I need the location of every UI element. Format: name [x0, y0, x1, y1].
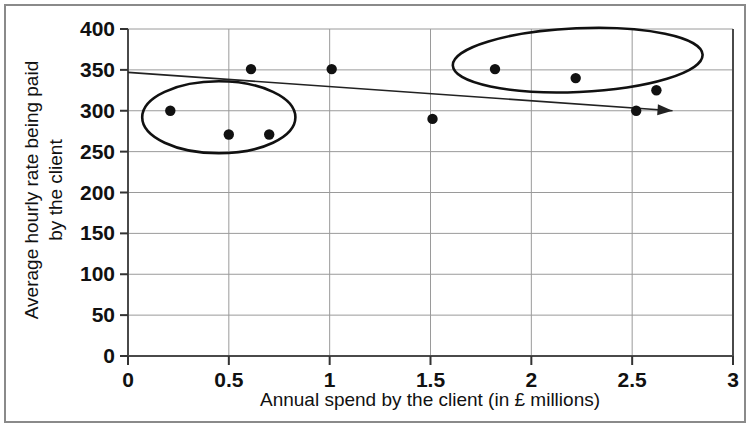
data-point: [246, 64, 256, 74]
y-tick-labels: 050100150200250300350400: [80, 17, 115, 367]
y-tick-marks: [120, 29, 128, 356]
y-tick-label: 100: [80, 262, 115, 285]
data-point: [651, 85, 661, 95]
y-axis-title-line1: Average hourly rate being paid: [21, 61, 42, 319]
data-point: [327, 64, 337, 74]
y-tick-label: 400: [80, 17, 115, 40]
scatter-chart: 050100150200250300350400 00.511.522.53 A…: [0, 0, 750, 427]
data-point: [490, 64, 500, 74]
data-point: [224, 129, 234, 139]
x-axis-title: Annual spend by the client (in £ million…: [260, 389, 600, 410]
x-tick-label: 1.5: [416, 368, 446, 391]
x-tick-label: 2.5: [618, 368, 648, 391]
data-point: [165, 106, 175, 116]
x-tick-labels: 00.511.522.53: [122, 368, 739, 391]
y-tick-label: 50: [92, 303, 115, 326]
data-point: [571, 73, 581, 83]
y-tick-label: 300: [80, 99, 115, 122]
x-tick-label: 0.5: [214, 368, 244, 391]
x-tick-label: 3: [727, 368, 739, 391]
chart-figure: 050100150200250300350400 00.511.522.53 A…: [0, 0, 750, 427]
y-tick-label: 0: [103, 344, 115, 367]
x-tick-label: 0: [122, 368, 134, 391]
data-point: [264, 129, 274, 139]
x-tick-label: 2: [525, 368, 537, 391]
x-tick-marks: [128, 356, 733, 365]
data-point: [427, 114, 437, 124]
y-tick-label: 250: [80, 140, 115, 163]
data-point: [631, 106, 641, 116]
x-tick-label: 1: [324, 368, 336, 391]
y-tick-label: 350: [80, 58, 115, 81]
y-tick-label: 200: [80, 181, 115, 204]
y-tick-label: 150: [80, 221, 115, 244]
y-axis-title-line2: by the client: [45, 139, 66, 241]
